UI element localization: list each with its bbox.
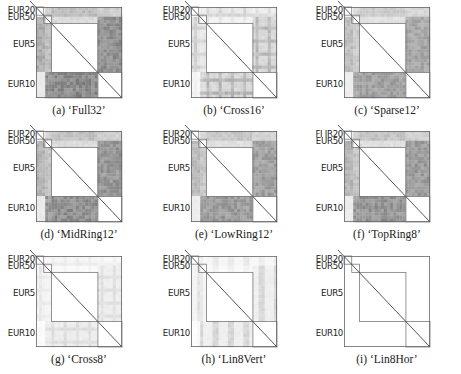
subfigure-f: FI IR20EUR50EUR5EUR10(f) ‘TopRing8’ [306, 124, 460, 248]
row-labels: FI IR20EUR50EUR5EUR10 [306, 124, 344, 224]
row-label-eur5: EUR5 [13, 289, 35, 298]
row-label-eur10: EUR10 [8, 80, 35, 89]
distance-matrix [344, 7, 430, 98]
row-labels: EUR20EUR50EUR5EUR10 [0, 124, 36, 224]
row-label-eur50: EUR50 [8, 13, 35, 22]
row-label-eur10: EUR10 [316, 329, 343, 338]
row-label-eur50: EUR50 [316, 137, 343, 146]
row-label-eur10: EUR10 [8, 329, 35, 338]
row-label-eur5: EUR5 [13, 164, 35, 173]
subfigure-g: EUR20EUR50EUR5EUR10(g) ‘Cross8’ [0, 249, 154, 373]
row-label-eur5: EUR5 [13, 40, 35, 49]
row-label-eur5: EUR5 [321, 289, 343, 298]
distance-matrix [36, 7, 122, 98]
subfigure-h: EUR20EUR50EUR5EUR10(h) ‘Lin8Vert’ [153, 249, 307, 373]
subfigure-caption: (e) ‘LowRing12’ [179, 228, 289, 240]
subfigure-b: EUR20EUR50EUR5EUR10(b) ‘Cross16’ [153, 0, 307, 124]
row-labels: EUR20EUR50EUR5EUR10 [153, 0, 191, 100]
row-label-eur50: EUR50 [8, 137, 35, 146]
row-labels: EUR20EUR50EUR5EUR10 [0, 249, 36, 349]
subfigure-i: EUR20EUR50EUR5EUR10(i) ‘Lin8Hor’ [306, 249, 460, 373]
row-label-eur10: EUR10 [8, 204, 35, 213]
row-label-eur10: EUR10 [163, 204, 190, 213]
subfigure-caption: (c) ‘Sparse12’ [332, 104, 442, 116]
subfigure-caption: (a) ‘Full32’ [24, 104, 134, 116]
subfigure-caption: (g) ‘Cross8’ [24, 353, 134, 365]
distance-matrix [344, 131, 430, 222]
subfigure-caption: (b) ‘Cross16’ [179, 104, 289, 116]
distance-matrix [191, 7, 277, 98]
subfigure-caption: (i) ‘Lin8Hor’ [332, 353, 442, 365]
row-labels: EUR20EUR50EUR5EUR10 [0, 0, 36, 100]
subfigure-caption: (f) ‘TopRing8’ [332, 228, 442, 240]
row-label-eur5: EUR5 [168, 289, 190, 298]
row-labels: EUR20EUR50EUR5EUR10 [306, 0, 344, 100]
subfigure-a: EUR20EUR50EUR5EUR10(a) ‘Full32’ [0, 0, 154, 124]
row-label-eur5: EUR5 [168, 40, 190, 49]
distance-matrix [191, 131, 277, 222]
row-label-eur50: EUR50 [316, 13, 343, 22]
subfigure-c: EUR20EUR50EUR5EUR10(c) ‘Sparse12’ [306, 0, 460, 124]
subfigure-caption: (d) ‘MidRing12’ [24, 228, 134, 240]
row-label-eur50: EUR50 [8, 262, 35, 271]
row-labels: EUR20EUR50EUR5EUR10 [153, 124, 191, 224]
row-label-eur5: EUR5 [321, 164, 343, 173]
row-labels: EUR20EUR50EUR5EUR10 [153, 249, 191, 349]
row-label-eur5: EUR5 [321, 40, 343, 49]
distance-matrix [344, 256, 430, 347]
row-label-eur10: EUR10 [316, 80, 343, 89]
figure-grid: EUR20EUR50EUR5EUR10(a) ‘Full32’EUR20EUR5… [0, 0, 461, 374]
distance-matrix [36, 131, 122, 222]
row-label-eur50: EUR50 [163, 13, 190, 22]
row-label-eur10: EUR10 [163, 329, 190, 338]
subfigure-caption: (h) ‘Lin8Vert’ [179, 353, 289, 365]
distance-matrix [36, 256, 122, 347]
row-label-eur50: EUR50 [163, 137, 190, 146]
subfigure-e: EUR20EUR50EUR5EUR10(e) ‘LowRing12’ [153, 124, 307, 248]
row-label-eur5: EUR5 [168, 164, 190, 173]
row-label-eur10: EUR10 [163, 80, 190, 89]
distance-matrix [191, 256, 277, 347]
row-labels: EUR20EUR50EUR5EUR10 [306, 249, 344, 349]
subfigure-d: EUR20EUR50EUR5EUR10(d) ‘MidRing12’ [0, 124, 154, 248]
row-label-eur50: EUR50 [163, 262, 190, 271]
row-label-eur10: EUR10 [316, 204, 343, 213]
row-label-eur50: EUR50 [316, 262, 343, 271]
